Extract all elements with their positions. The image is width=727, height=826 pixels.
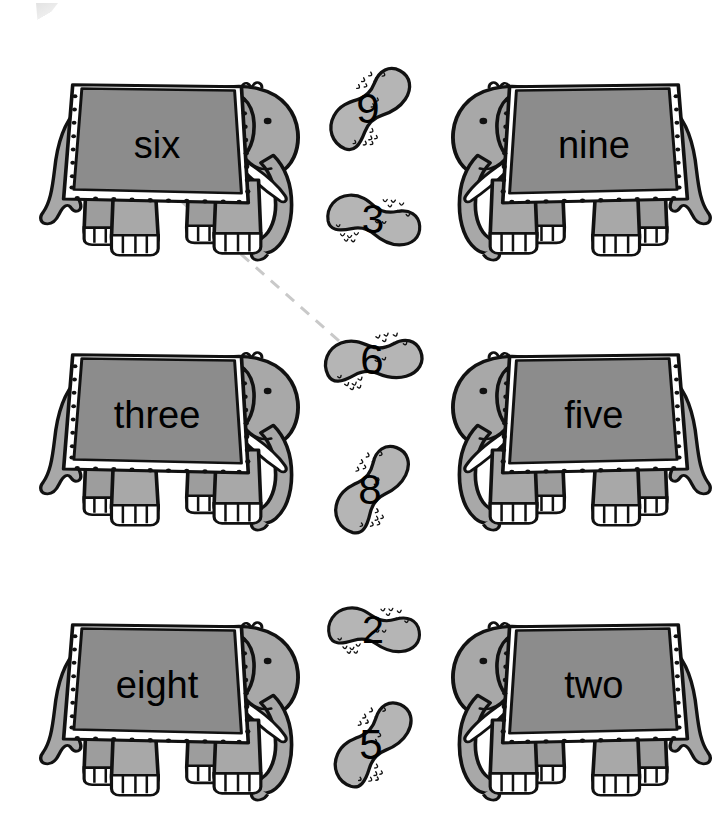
- peanut-digit-9: 9: [356, 85, 379, 132]
- elephant-figure: [41, 83, 298, 261]
- peanut-digit-6: 6: [360, 336, 383, 383]
- peanut-digit-2: 2: [362, 607, 384, 651]
- elephant-figure: [453, 83, 710, 261]
- peanut-6[interactable]: 6: [319, 317, 428, 404]
- elephant-two[interactable]: two: [453, 623, 710, 801]
- elephant-eight[interactable]: eight: [41, 623, 298, 801]
- peanut-digit-5: 5: [359, 721, 382, 768]
- elephant-label-six: six: [134, 124, 181, 166]
- peanut-2[interactable]: 2: [325, 597, 422, 664]
- elephant-six[interactable]: six: [41, 83, 298, 261]
- elephant-label-five: five: [564, 394, 623, 436]
- peanut-digit-3: 3: [362, 196, 384, 242]
- elephant-label-nine: nine: [558, 124, 630, 166]
- peanut-digit-8: 8: [358, 466, 381, 513]
- elephant-figure: [41, 623, 298, 801]
- elephant-label-eight: eight: [116, 664, 199, 706]
- elephant-label-three: three: [114, 394, 201, 436]
- worksheet-canvas: sixninethreefiveeighttwo 936825: [0, 0, 727, 826]
- elephant-label-two: two: [564, 664, 623, 706]
- peanut-3[interactable]: 3: [326, 191, 421, 250]
- worksheet-page: sixninethreefiveeighttwo 936825: [0, 0, 727, 826]
- elephant-five[interactable]: five: [453, 353, 710, 531]
- elephant-figure: [453, 623, 710, 801]
- peanuts-layer: 936825: [319, 53, 428, 798]
- elephant-nine[interactable]: nine: [453, 83, 710, 261]
- elephant-three[interactable]: three: [41, 353, 298, 531]
- elephant-figure: [41, 353, 298, 531]
- elephants-layer: sixninethreefiveeighttwo: [41, 83, 711, 801]
- peanut-9[interactable]: 9: [323, 53, 416, 163]
- elephant-figure: [453, 353, 710, 531]
- peanut-5[interactable]: 5: [328, 689, 417, 798]
- peanut-8[interactable]: 8: [329, 435, 413, 543]
